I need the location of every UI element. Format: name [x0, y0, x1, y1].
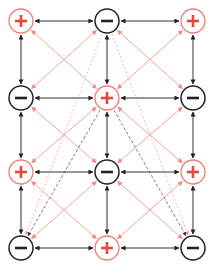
sign-lattice-diagram: [0, 0, 213, 272]
negative-node: [95, 160, 119, 184]
negative-node: [181, 236, 205, 260]
negative-node: [9, 236, 33, 260]
edges-layer: [21, 21, 193, 248]
positive-node: [9, 9, 33, 33]
positive-node: [181, 9, 205, 33]
positive-node: [181, 160, 205, 184]
negative-node: [9, 86, 33, 110]
dashed-edge: [28, 110, 100, 236]
negative-node: [181, 86, 205, 110]
dashed-edge: [26, 34, 102, 235]
dashed-edge: [112, 34, 188, 235]
dashed-edge: [114, 110, 186, 236]
negative-node: [95, 9, 119, 33]
positive-node: [95, 236, 119, 260]
positive-node: [9, 160, 33, 184]
diagram-canvas: [0, 0, 213, 272]
positive-node: [95, 86, 119, 110]
